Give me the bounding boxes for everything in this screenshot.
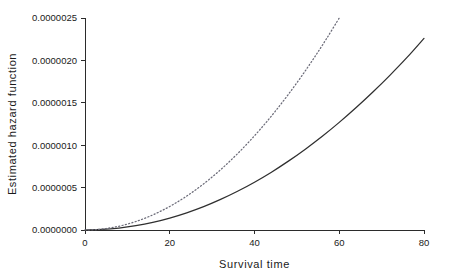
- x-tick-label: 60: [334, 237, 345, 248]
- x-axis-ticks: [85, 230, 424, 234]
- chart-canvas: 0.00000000.00000050.00000100.00000150.00…: [0, 0, 453, 277]
- x-axis-tick-labels: 020406080: [82, 237, 429, 248]
- x-tick-label: 40: [249, 237, 260, 248]
- x-tick-label: 80: [419, 237, 430, 248]
- y-axis: 0.00000000.00000050.00000100.00000150.00…: [32, 12, 85, 235]
- dotted-hazard-curve: [85, 18, 339, 230]
- x-tick-label: 0: [82, 237, 87, 248]
- solid-hazard-curve: [85, 38, 424, 230]
- hazard-function-chart: 0.00000000.00000050.00000100.00000150.00…: [0, 0, 453, 277]
- y-axis-title: Estimated hazard function: [6, 53, 18, 195]
- y-tick-label: 0.0000000: [32, 224, 77, 235]
- y-axis-tick-labels: 0.00000000.00000050.00000100.00000150.00…: [32, 12, 77, 235]
- y-axis-ticks: [81, 18, 85, 230]
- y-tick-label: 0.0000025: [32, 12, 77, 23]
- x-axis-title: Survival time: [219, 258, 290, 270]
- y-tick-label: 0.0000005: [32, 182, 77, 193]
- y-tick-label: 0.0000015: [32, 97, 77, 108]
- data-series-group: [85, 18, 424, 230]
- y-tick-label: 0.0000020: [32, 55, 77, 66]
- y-tick-label: 0.0000010: [32, 140, 77, 151]
- x-tick-label: 20: [164, 237, 175, 248]
- x-axis: 020406080: [82, 230, 429, 248]
